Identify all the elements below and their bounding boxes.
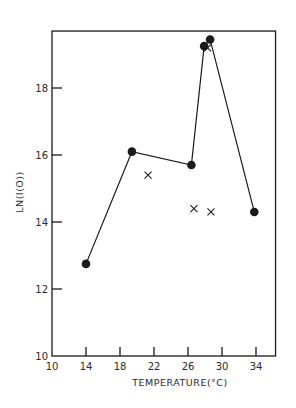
y-tick-label: 12 [35, 284, 48, 295]
x-axis-label: TEMPERATURE(°C) [131, 377, 227, 388]
cross-marker [190, 205, 197, 212]
data-markers [82, 35, 259, 268]
filled-circle-marker [128, 147, 137, 156]
series-line [86, 39, 254, 263]
filled-circle-marker [82, 260, 91, 269]
plot-frame [52, 31, 276, 356]
x-tick-label: 14 [80, 361, 93, 372]
plot-border [52, 31, 276, 356]
x-tick-label: 30 [216, 361, 229, 372]
y-axis-label: LN(I(O)) [14, 171, 25, 213]
x-axis-ticks: 10141822263034 [46, 347, 263, 372]
x-tick-label: 22 [148, 361, 161, 372]
cross-marker [145, 172, 152, 179]
connecting-line [86, 39, 254, 263]
y-tick-label: 18 [35, 83, 48, 94]
y-tick-label: 16 [35, 150, 48, 161]
x-tick-label: 10 [46, 361, 59, 372]
x-tick-label: 26 [182, 361, 195, 372]
y-axis-ticks: 1012141618 [35, 83, 62, 362]
filled-circle-marker [187, 161, 196, 170]
filled-circle-marker [200, 42, 209, 51]
cross-marker [207, 208, 214, 215]
y-tick-label: 14 [35, 217, 48, 228]
x-tick-label: 34 [250, 361, 263, 372]
y-tick-label: 10 [35, 351, 48, 362]
chart: 10141822263034 1012141618 TEMPERATURE(°C… [0, 0, 296, 408]
filled-circle-marker [206, 35, 215, 44]
filled-circle-marker [250, 208, 259, 217]
x-tick-label: 18 [114, 361, 127, 372]
